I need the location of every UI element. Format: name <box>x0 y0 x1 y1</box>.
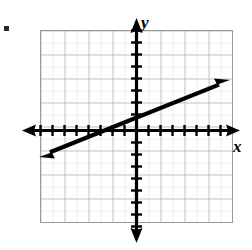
graph-canvas: y x <box>0 0 252 250</box>
y-axis-label: y <box>139 13 149 32</box>
bullet-marker-icon <box>4 26 9 31</box>
x-axis-label: x <box>232 137 242 156</box>
coordinate-plane-figure: y x <box>0 0 252 250</box>
